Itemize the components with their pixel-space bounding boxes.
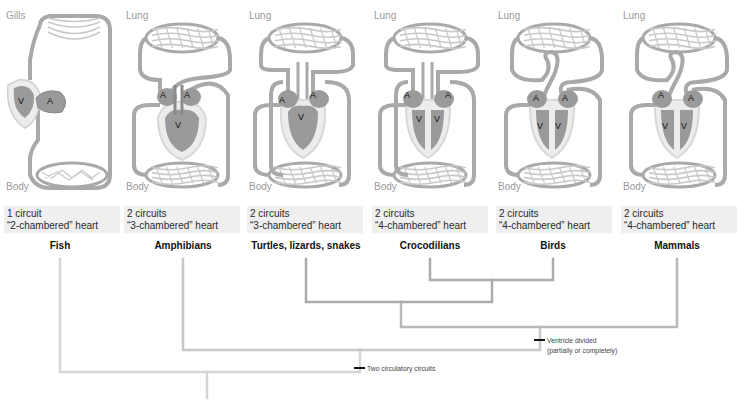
character-label-two-circuits: Two circulatory circuits xyxy=(367,364,435,374)
character-label-ventricle-divided: Ventricle divided (partially or complete… xyxy=(547,336,617,355)
branch-fish xyxy=(60,259,360,372)
character-text-line1: Ventricle divided xyxy=(547,336,617,346)
character-text-line2: (partially or completely) xyxy=(547,346,617,356)
cladogram xyxy=(0,0,755,407)
branch-amphibians xyxy=(183,259,540,350)
character-text: Two circulatory circuits xyxy=(367,364,435,373)
branch-archosaurs xyxy=(430,259,553,280)
branch-mammals xyxy=(401,259,677,327)
